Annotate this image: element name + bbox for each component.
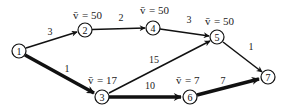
v-bar-symbol: v̄	[88, 74, 94, 86]
edge-label-2-4: 2	[119, 12, 124, 23]
edge-label-3-5: 15	[149, 54, 159, 65]
value-text: = 50	[214, 15, 234, 27]
value-label-node-2: v̄ = 50	[73, 9, 102, 21]
node-7: 7	[261, 70, 275, 84]
node-1: 1	[12, 44, 26, 58]
edge-label-1-2: 3	[48, 26, 53, 37]
edge-label-6-7: 7	[221, 75, 226, 86]
v-bar-symbol: v̄	[176, 74, 182, 86]
node-label: 3	[100, 92, 105, 103]
edge-label-3-6: 10	[145, 80, 155, 91]
edge-2-4	[92, 28, 145, 30]
node-label: 7	[266, 72, 271, 83]
node-2: 2	[78, 23, 92, 37]
node-label: 4	[151, 23, 156, 34]
node-4: 4	[146, 21, 160, 35]
node-label: 1	[17, 46, 22, 57]
v-bar-symbol: v̄	[140, 4, 146, 16]
edges	[25, 28, 262, 97]
v-bar-symbol: v̄	[205, 15, 211, 27]
node-value-labels: v̄ = 50 v̄ = 50 v̄ = 50 v̄ = 17 v̄ = 7	[73, 4, 234, 86]
node-6: 6	[183, 90, 197, 104]
value-label-node-5: v̄ = 50	[205, 15, 234, 27]
v-bar-symbol: v̄	[73, 9, 79, 21]
edge-1-3	[25, 55, 94, 93]
network-diagram: 3 1 2 3 15 10 1 7 v̄ = 50 v̄ = 50 v̄ = 5…	[0, 0, 285, 109]
edge-label-4-5: 3	[187, 14, 192, 25]
value-text: = 17	[97, 74, 117, 86]
edge-6-7	[197, 79, 259, 95]
edge-5-7	[223, 42, 262, 72]
value-text: = 50	[82, 9, 102, 21]
node-3: 3	[95, 90, 109, 104]
value-label-node-6: v̄ = 7	[176, 74, 200, 86]
edge-label-1-3: 1	[65, 63, 70, 74]
edge-label-5-7: 1	[249, 41, 254, 52]
edge-4-5	[160, 29, 209, 36]
node-label: 6	[188, 92, 193, 103]
node-5: 5	[210, 30, 224, 44]
node-label: 2	[83, 25, 88, 36]
value-label-node-3: v̄ = 17	[88, 74, 117, 86]
value-label-node-4: v̄ = 50	[140, 4, 169, 16]
node-label: 5	[215, 32, 220, 43]
value-text: = 50	[149, 4, 169, 16]
value-text: = 7	[185, 74, 200, 86]
